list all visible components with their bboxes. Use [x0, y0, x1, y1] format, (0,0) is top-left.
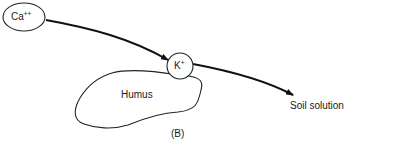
calcium-charge: ++: [24, 10, 32, 17]
potassium-charge: +: [181, 59, 185, 66]
arrow-calcium-to-potassium: [46, 20, 168, 60]
humus-label: Humus: [121, 89, 153, 100]
potassium-ion-label: K+: [174, 59, 184, 71]
calcium-symbol: Ca: [11, 11, 24, 22]
diagram-canvas: [0, 0, 397, 155]
panel-label: (B): [171, 128, 184, 139]
potassium-symbol: K: [174, 60, 181, 71]
arrow-potassium-to-soil-solution: [193, 64, 293, 95]
calcium-ion-label: Ca++: [11, 10, 31, 22]
soil-solution-label: Soil solution: [290, 100, 344, 111]
